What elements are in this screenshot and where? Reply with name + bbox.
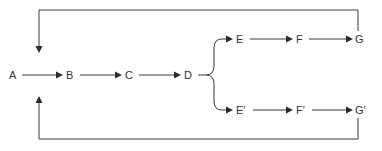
flow-diagram: A B C D E F (0, 0, 382, 151)
node-e: E (236, 33, 243, 45)
node-g-prime: G′ (355, 104, 366, 116)
node-e-prime: E′ (236, 104, 245, 116)
node-a: A (9, 69, 17, 81)
arrow-f-prime-g-prime (312, 107, 353, 114)
split-brace (198, 36, 233, 114)
arrow-c-d (139, 72, 181, 79)
node-d: D (184, 69, 192, 81)
node-f-prime: F′ (296, 104, 305, 116)
arrow-f-g (309, 36, 353, 43)
arrow-e-f (250, 36, 293, 43)
arrow-b-c (80, 72, 122, 79)
node-b: B (66, 69, 73, 81)
arrow-a-b (22, 72, 63, 79)
feedback-loop-top (36, 10, 359, 53)
arrow-e-prime-f-prime (253, 107, 293, 114)
node-f: F (296, 33, 303, 45)
feedback-loop-bottom (36, 96, 359, 139)
node-g: G (355, 33, 364, 45)
node-c: C (125, 69, 133, 81)
